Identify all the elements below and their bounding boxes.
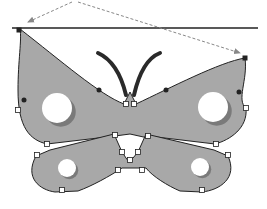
corner-anchor-point[interactable] bbox=[113, 133, 118, 138]
corner-anchor-point[interactable] bbox=[214, 142, 219, 147]
corner-anchor-point[interactable] bbox=[128, 158, 133, 163]
corner-anchor-point[interactable] bbox=[146, 134, 151, 139]
upper-wings-shape[interactable] bbox=[18, 29, 246, 144]
corner-anchor-point[interactable] bbox=[244, 106, 249, 111]
selected-anchor-point[interactable] bbox=[243, 56, 248, 61]
corner-anchor-point[interactable] bbox=[226, 153, 231, 158]
selected-anchor-point[interactable] bbox=[17, 28, 22, 33]
corner-anchor-point[interactable] bbox=[136, 150, 141, 155]
lower-left-spot bbox=[58, 159, 76, 177]
arrow-to-left-corner bbox=[28, 2, 72, 22]
lower-right-spot bbox=[191, 158, 209, 176]
corner-anchor-point[interactable] bbox=[140, 168, 145, 173]
smooth-anchor-point[interactable] bbox=[22, 98, 27, 103]
antennae bbox=[98, 53, 160, 95]
upper-right-spot bbox=[198, 92, 228, 122]
upper-left-spot bbox=[42, 93, 72, 123]
corner-anchor-point[interactable] bbox=[16, 108, 21, 113]
corner-anchor-point[interactable] bbox=[35, 153, 40, 158]
corner-anchor-point[interactable] bbox=[124, 102, 129, 107]
corner-anchor-point[interactable] bbox=[120, 150, 125, 155]
butterfly-illustration bbox=[0, 0, 267, 209]
smooth-anchor-point[interactable] bbox=[97, 88, 102, 93]
vector-canvas bbox=[0, 0, 267, 209]
corner-anchor-point[interactable] bbox=[116, 168, 121, 173]
corner-anchor-point[interactable] bbox=[132, 102, 137, 107]
smooth-anchor-point[interactable] bbox=[237, 90, 242, 95]
left-antenna bbox=[98, 53, 126, 95]
corner-anchor-point[interactable] bbox=[200, 188, 205, 193]
corner-anchor-point[interactable] bbox=[45, 142, 50, 147]
corner-anchor-point[interactable] bbox=[60, 188, 65, 193]
smooth-anchor-point[interactable] bbox=[164, 88, 169, 93]
right-antenna bbox=[134, 53, 160, 95]
